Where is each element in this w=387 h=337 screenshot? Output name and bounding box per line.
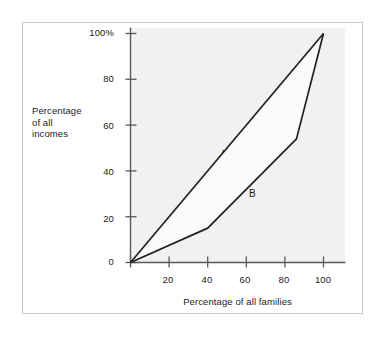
data-series	[131, 34, 324, 263]
chart-figure: Percentage of all incomes 100% 80 60 40 …	[0, 0, 387, 337]
plot-canvas	[0, 0, 387, 337]
series-a-line	[131, 34, 324, 263]
